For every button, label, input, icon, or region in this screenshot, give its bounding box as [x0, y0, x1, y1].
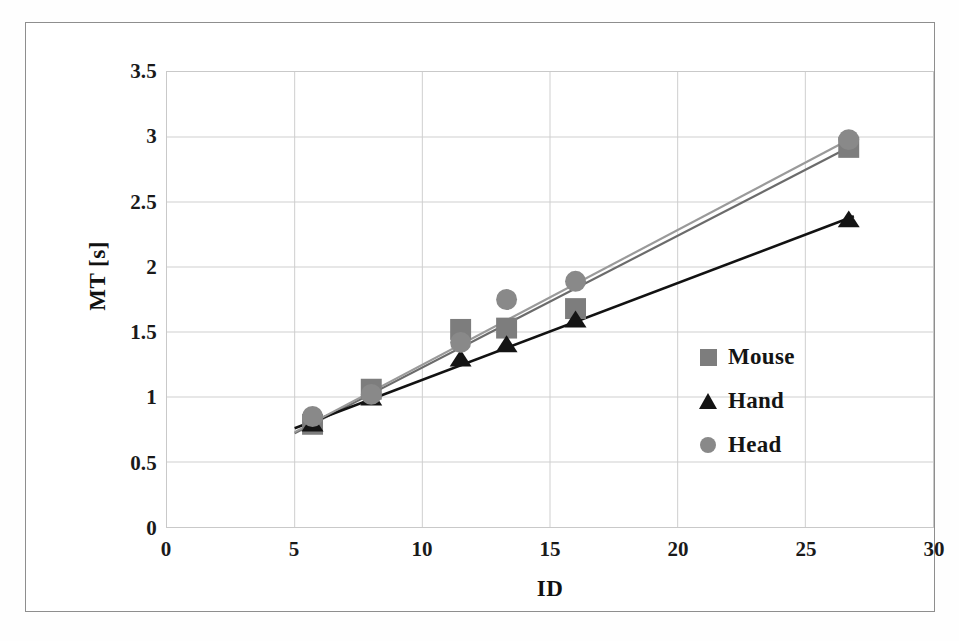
- legend-label: Hand: [728, 388, 784, 414]
- x-tick-label: 15: [540, 537, 561, 562]
- triangle-marker-icon: [695, 388, 721, 414]
- x-tick-label: 30: [924, 537, 945, 562]
- square-marker-icon: [695, 344, 721, 370]
- y-axis-title: MT [s]: [85, 196, 111, 356]
- data-point-head: [838, 129, 859, 150]
- legend-item-hand[interactable]: Hand: [695, 379, 875, 423]
- x-tick-label: 5: [289, 537, 300, 562]
- y-tick-label: 1.5: [130, 320, 157, 345]
- legend-label: Head: [728, 432, 782, 458]
- y-tick-label: 3: [146, 124, 157, 149]
- x-tick-label: 0: [161, 537, 172, 562]
- y-tick-label: 2.5: [130, 189, 157, 214]
- y-tick-label: 1: [146, 385, 157, 410]
- x-axis-tick-labels: 051015202530: [166, 537, 934, 567]
- legend-swatch: [699, 393, 717, 409]
- y-tick-label: 0.5: [130, 450, 157, 475]
- legend-swatch: [700, 437, 716, 453]
- circle-marker-icon: [695, 432, 721, 458]
- legend-item-head[interactable]: Head: [695, 423, 875, 467]
- y-tick-label: 0: [146, 516, 157, 541]
- x-tick-label: 25: [796, 537, 817, 562]
- data-point-head: [302, 406, 323, 427]
- data-point-head: [496, 289, 517, 310]
- data-point-hand: [838, 210, 860, 227]
- figure-outer-frame: 00.511.522.533.5 051015202530 MT [s] ID …: [25, 22, 935, 612]
- x-tick-label: 20: [668, 537, 689, 562]
- y-tick-label: 2: [146, 254, 157, 279]
- legend-label: Mouse: [728, 344, 795, 370]
- y-tick-label: 3.5: [130, 59, 157, 84]
- data-point-head: [565, 271, 586, 292]
- legend-item-mouse[interactable]: Mouse: [695, 335, 875, 379]
- figure-canvas: 00.511.522.533.5 051015202530 MT [s] ID …: [0, 0, 959, 641]
- legend-swatch: [700, 349, 717, 366]
- x-axis-title: ID: [166, 576, 934, 602]
- x-tick-label: 10: [412, 537, 433, 562]
- chart-legend: MouseHandHead: [695, 335, 875, 467]
- data-point-head: [361, 384, 382, 405]
- data-point-head: [450, 332, 471, 353]
